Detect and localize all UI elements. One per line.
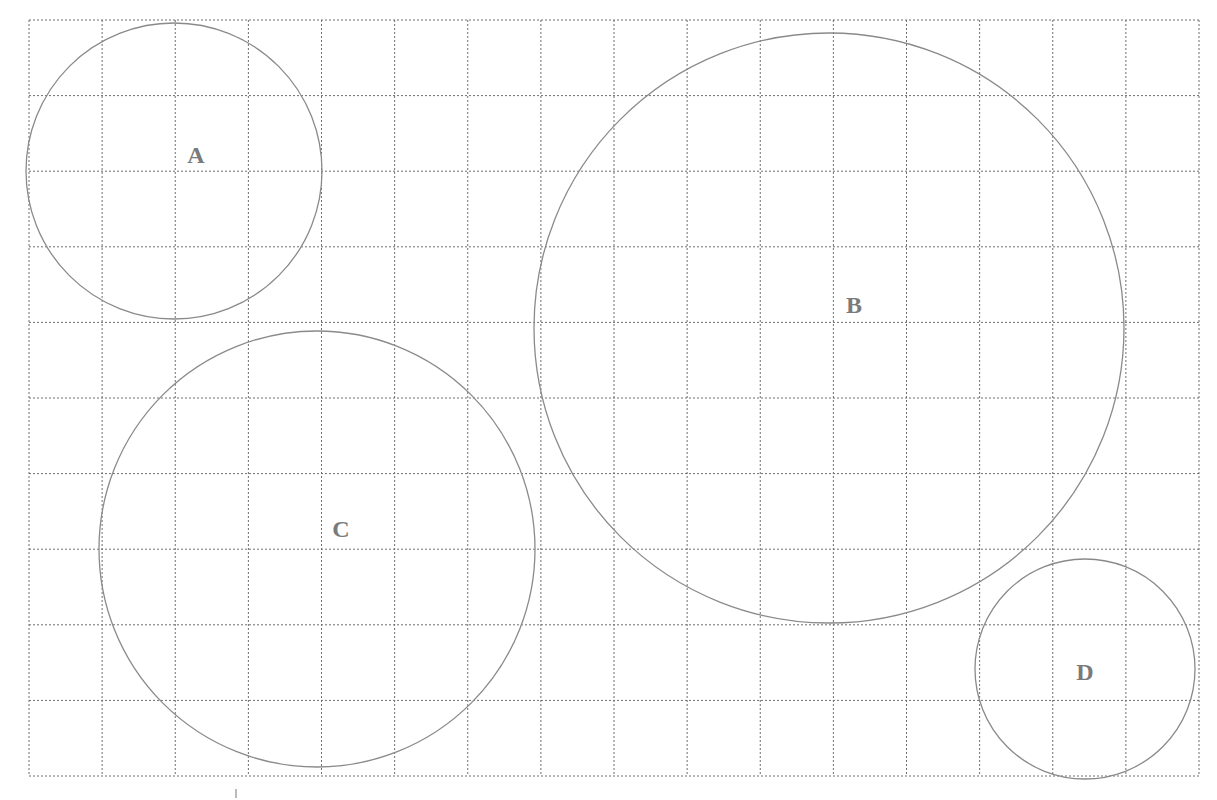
circle-d: D [975,559,1195,779]
dotted-grid [29,20,1199,776]
circle-a-label: A [187,142,205,168]
circles-group: A B C D [26,23,1195,779]
circle-b-label: B [846,292,862,318]
circle-b: B [534,33,1124,623]
circle-c-label: C [332,516,349,542]
circle-d-label: D [1076,659,1093,685]
circle-grid-diagram: A B C D [0,0,1217,800]
circle-b-outline [534,33,1124,623]
